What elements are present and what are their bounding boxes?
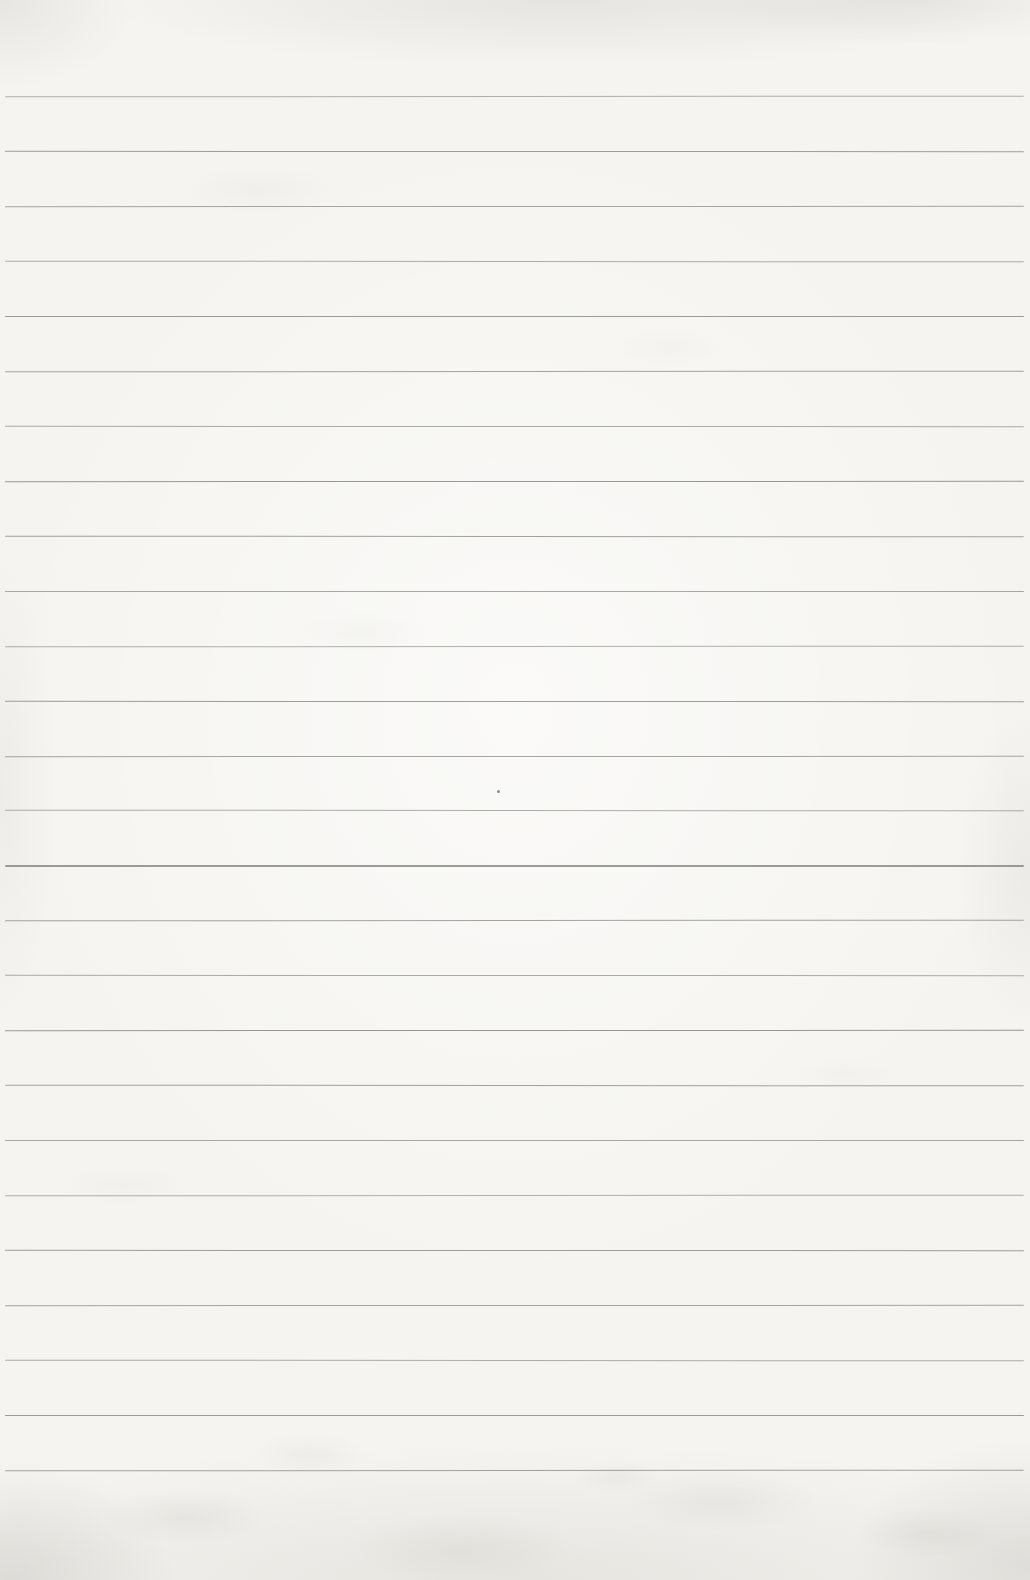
ruled-line — [5, 645, 1024, 647]
ruled-line — [5, 865, 1024, 866]
ruled-line — [5, 810, 1024, 812]
ruled-line — [5, 481, 1024, 483]
ruled-line — [5, 261, 1024, 263]
ruled-lines — [0, 0, 1030, 1580]
ruled-line — [5, 206, 1024, 208]
ruled-line — [5, 700, 1024, 702]
ruled-line — [5, 1085, 1024, 1087]
ruled-line — [5, 96, 1024, 98]
ruled-line — [5, 1140, 1024, 1141]
ruled-line — [5, 975, 1024, 977]
ruled-line — [5, 1250, 1024, 1252]
notebook-page — [0, 0, 1030, 1580]
ruled-line — [5, 370, 1024, 372]
ruled-line — [5, 1030, 1024, 1032]
ruled-line — [5, 535, 1024, 537]
ink-speck — [497, 790, 500, 793]
ruled-line — [5, 426, 1024, 428]
ruled-line — [5, 1305, 1024, 1307]
ruled-line — [5, 1195, 1024, 1197]
ruled-line — [5, 151, 1024, 153]
ruled-line — [5, 1360, 1024, 1362]
ruled-line — [5, 755, 1024, 757]
ruled-line — [5, 1415, 1024, 1416]
ruled-line — [5, 591, 1024, 592]
ruled-line — [5, 920, 1024, 922]
ruled-line — [5, 316, 1024, 317]
ruled-line — [5, 1470, 1024, 1472]
